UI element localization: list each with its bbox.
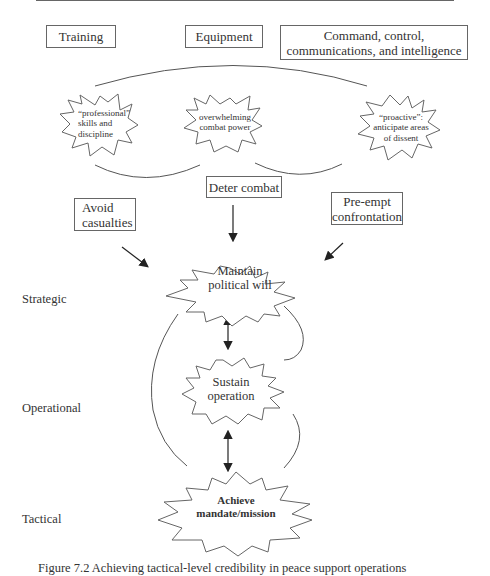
political-will-text: Maintain political will — [190, 264, 290, 293]
proactive-line-3: of dissent — [364, 133, 438, 143]
combat-line-1: overwhelming — [185, 112, 265, 122]
avoid-casualties-box: Avoid casualties — [74, 198, 136, 231]
preempt-line-1: Pre-empt — [343, 194, 391, 209]
bursts — [60, 94, 440, 556]
sustain-operation-text: Sustain operation — [196, 375, 266, 404]
professional-line-2: skills and — [78, 118, 148, 128]
avoid-line-2: casualties — [82, 215, 133, 230]
level-operational: Operational — [22, 401, 81, 416]
preempt-line-2: confrontation — [332, 209, 402, 224]
proactive-line-2: anticipate areas — [364, 122, 438, 132]
level-tactical: Tactical — [22, 512, 61, 527]
proactive-line-1: “proactive”: — [364, 112, 438, 122]
political-will-line-2: political will — [190, 278, 290, 292]
burst-combat-text: overwhelming combat power — [185, 112, 265, 133]
professional-line-1: “professional” — [78, 108, 148, 118]
sustain-line-1: Sustain — [196, 375, 266, 389]
political-will-line-1: Maintain — [190, 264, 290, 278]
sustain-line-2: operation — [196, 389, 266, 403]
deter-combat-label: Deter combat — [209, 180, 279, 195]
achieve-mandate-text: Achieve mandate/mission — [186, 494, 286, 519]
preempt-box: Pre-empt confrontation — [331, 192, 403, 225]
mandate-line-2: mandate/mission — [186, 507, 286, 520]
professional-line-3: discipline — [78, 129, 148, 139]
level-strategic: Strategic — [22, 292, 66, 307]
burst-proactive-text: “proactive”: anticipate areas of dissent — [364, 112, 438, 143]
deter-combat-box: Deter combat — [206, 176, 282, 198]
avoid-line-1: Avoid — [82, 200, 114, 215]
burst-professional-text: “professional” skills and discipline — [66, 108, 148, 139]
figure-caption: Figure 7.2 Achieving tactical-level cred… — [38, 561, 406, 576]
combat-line-2: combat power — [185, 122, 265, 132]
mandate-line-1: Achieve — [186, 494, 286, 507]
